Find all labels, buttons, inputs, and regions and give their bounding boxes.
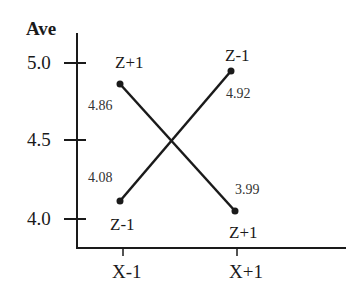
value-label-4.86: 4.86 [88,99,113,113]
chart-canvas [0,0,362,294]
value-label-3.99: 3.99 [235,183,260,197]
series-label-z-minus-1-right: Z-1 [225,47,250,64]
series-label-z-plus-1-right: Z+1 [229,224,257,241]
series-label-z-minus-1-left: Z-1 [110,216,135,233]
y-tick-label-4.5: 4.5 [27,130,51,149]
y-axis-label: Ave [26,19,56,38]
value-label-4.92: 4.92 [226,87,251,101]
y-tick-label-4.0: 4.0 [27,209,51,228]
data-point-z-minus-1-x-plus-1 [228,68,235,75]
series-line-z-minus-1 [120,71,231,201]
x-tick-label-x-plus-1: X+1 [229,262,263,281]
value-label-4.08: 4.08 [88,171,113,185]
series-line-z-plus-1 [120,84,235,211]
series-label-z-plus-1-left: Z+1 [115,54,143,71]
x-tick-label-x-minus-1: X-1 [112,262,142,281]
data-point-z-minus-1-x-minus-1 [117,198,124,205]
y-tick-label-5.0: 5.0 [27,53,51,72]
data-point-z-plus-1-x-plus-1 [232,208,239,215]
data-point-z-plus-1-x-minus-1 [117,81,124,88]
